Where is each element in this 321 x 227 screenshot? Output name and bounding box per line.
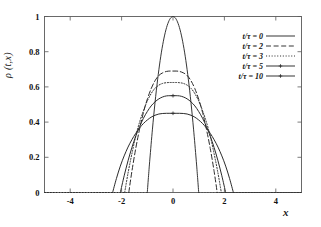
x-tick-label: 2 [222,196,226,206]
series-marker [171,94,175,98]
legend-label: t/τ = 3 [242,52,263,61]
y-axis-title: ρ (t,x) [2,18,13,78]
y-tick-label: 0.8 [29,47,40,57]
y-tick-label: 0.2 [29,152,40,162]
y-tick-label: 0.4 [29,117,40,127]
figure-container: -4-202400.20.40.60.81 t/τ = 0t/τ = 2t/τ … [0,0,321,227]
y-tick-label: 0.6 [29,82,40,92]
series-line [129,71,217,192]
chart-legend: t/τ = 0t/τ = 2t/τ = 3t/τ = 5t/τ = 10 [238,32,295,81]
series-marker [171,112,175,116]
legend-label: t/τ = 5 [242,62,263,71]
x-axis-title: x [283,206,289,218]
y-tick-label: 0 [35,188,39,198]
chart-canvas: -4-202400.20.40.60.81 t/τ = 0t/τ = 2t/τ … [0,0,321,227]
y-tick-label: 1 [35,12,39,22]
legend-label: t/τ = 0 [242,32,263,41]
series-line [125,82,222,192]
x-tick-label: -2 [118,196,125,206]
legend-label: t/τ = 10 [238,72,263,81]
legend-label: t/τ = 2 [242,42,263,51]
series-line [147,17,198,193]
x-tick-label: -4 [67,196,75,206]
x-tick-label: 4 [274,196,279,206]
axis-tick-labels: -4-202400.20.40.60.81 [29,12,279,206]
x-tick-label: 0 [171,196,175,206]
